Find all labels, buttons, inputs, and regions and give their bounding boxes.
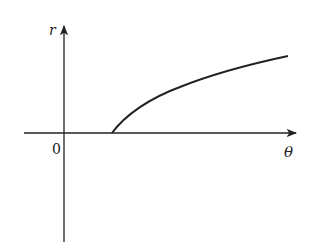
diagram-canvas: r 0 θ: [0, 0, 311, 242]
graph-svg: r 0 θ: [0, 0, 311, 242]
origin-label: 0: [52, 141, 61, 157]
curve: [112, 56, 288, 133]
theta-axis-label: θ: [284, 143, 293, 161]
r-axis-label: r: [49, 22, 57, 38]
